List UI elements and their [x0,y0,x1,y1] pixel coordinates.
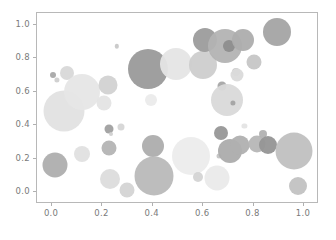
plot-axes-area [36,12,318,203]
x-axis-tick [202,203,203,206]
y-axis-tick [33,124,36,125]
scatter-point [172,137,210,175]
scatter-point [276,133,313,170]
x-axis-tick-label: 1.0 [296,208,310,218]
scatter-point [142,135,164,157]
scatter-point [74,146,90,162]
x-axis-tick-label: 0.4 [145,208,159,218]
scatter-point [193,172,203,182]
scatter-point [120,182,135,197]
y-axis-tick-label: 0.8 [16,52,30,62]
y-axis-tick [33,91,36,92]
scatter-point [135,157,174,196]
scatter-point [242,124,247,129]
scatter-point [211,84,243,116]
scatter-point [160,48,192,80]
y-axis-tick [33,158,36,159]
scatter-point [214,126,228,140]
x-axis-tick [152,203,153,206]
scatter-point [230,69,243,82]
y-axis-tick-label: 0.6 [16,86,30,96]
scatter-point [114,44,118,48]
x-axis-tick-label: 0.6 [195,208,209,218]
scatter-point [259,136,277,154]
scatter-point [204,165,229,190]
x-axis-tick-label: 0.2 [94,208,108,218]
scatter-point [289,177,307,195]
scatter-point [263,18,291,46]
scatter-point [55,77,60,82]
x-axis-tick [51,203,52,206]
scatter-point [109,132,113,136]
scatter-point [43,152,68,177]
scatter-point [232,29,254,51]
scatter-plot-figure: 0.00.20.40.60.81.00.00.20.40.60.81.0 [0,0,336,240]
scatter-point [145,94,157,106]
x-axis-tick-label: 0.8 [245,208,259,218]
scatter-point [102,141,117,156]
y-axis-tick [33,24,36,25]
scatter-point [97,96,112,111]
scatter-point [117,123,124,130]
x-axis-tick-label: 0.0 [44,208,58,218]
x-axis-tick [101,203,102,206]
scatter-point [64,74,100,110]
x-axis-tick [253,203,254,206]
scatter-point [99,76,118,95]
scatter-point [100,169,120,189]
scatter-point [104,124,113,133]
y-axis-tick-label: 0.4 [16,119,30,129]
y-axis-tick-label: 0.2 [16,153,30,163]
y-axis-tick [33,57,36,58]
x-axis-tick [303,203,304,206]
y-axis-tick-label: 1.0 [16,19,30,29]
y-axis-tick [33,191,36,192]
y-axis-tick-label: 0.0 [16,186,30,196]
scatter-point [246,55,261,70]
